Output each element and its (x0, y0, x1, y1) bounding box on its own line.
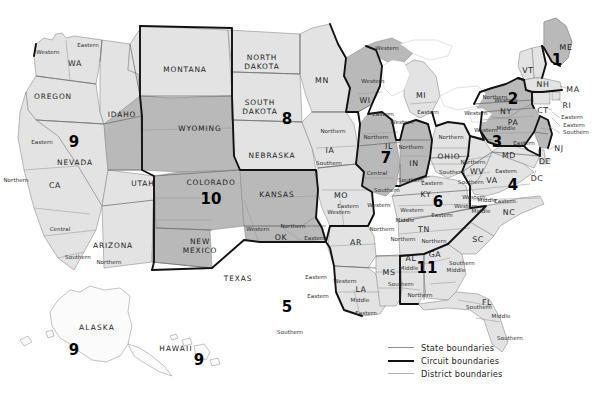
legend-label-district: District boundaries (421, 369, 503, 379)
district-boundary-swatch (388, 373, 414, 374)
legend-item-state: State boundaries (388, 341, 528, 354)
us-judicial-circuits-map: WAOREGONIDAHOMONTANAWYOMINGNORTHDAKOTASO… (0, 0, 597, 414)
map-legend: State boundaries Circuit boundaries Dist… (388, 341, 528, 380)
legend-item-district: District boundaries (388, 367, 528, 380)
state-boundary-swatch (388, 347, 414, 348)
legend-item-circuit: Circuit boundaries (388, 354, 528, 367)
circuit-boundary-swatch (388, 360, 414, 362)
legend-label-state: State boundaries (421, 343, 494, 353)
legend-label-circuit: Circuit boundaries (421, 356, 499, 366)
